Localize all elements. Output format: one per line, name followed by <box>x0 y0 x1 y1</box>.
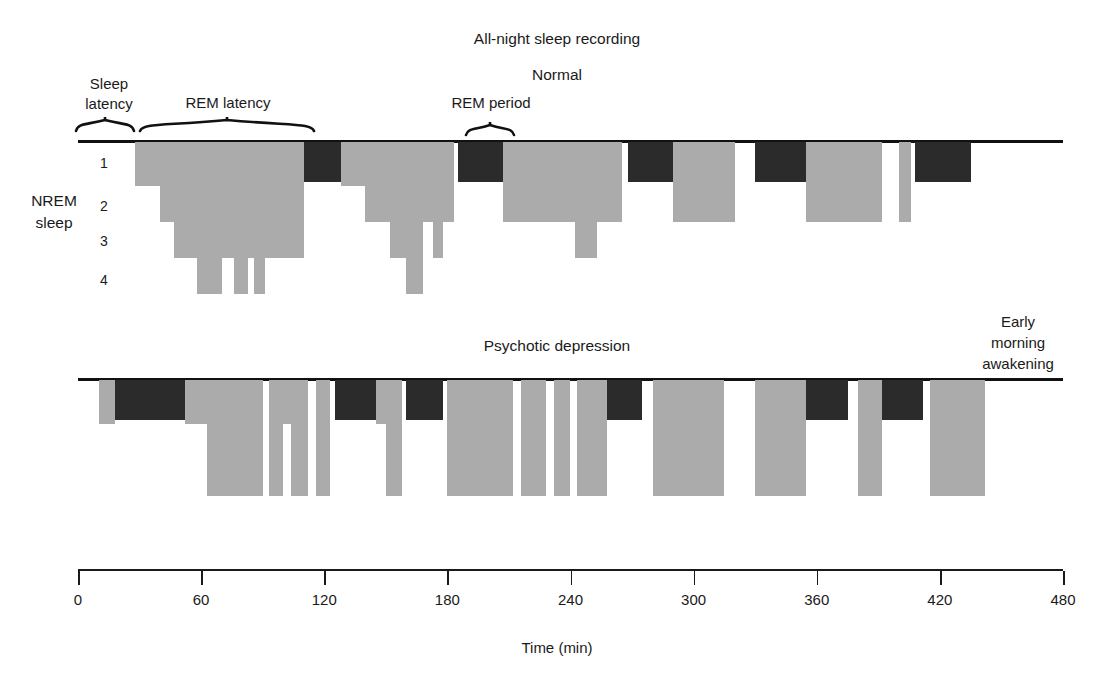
rem-segment <box>406 380 443 420</box>
nrem-sleep-line1: NREM <box>18 190 90 212</box>
nrem-segment <box>269 380 283 496</box>
x-axis-tick-label: 60 <box>177 591 225 608</box>
nrem-segment <box>597 142 622 222</box>
depression-panel-label: Psychotic depression <box>0 337 1114 355</box>
nrem-segment <box>930 380 985 496</box>
nrem-segment <box>135 142 160 186</box>
x-axis-tick <box>201 571 203 585</box>
x-axis-tick <box>78 571 80 585</box>
chart-title: All-night sleep recording <box>0 30 1114 48</box>
rem-segment <box>458 142 503 182</box>
nrem-segment <box>365 142 390 222</box>
sleep-hypnogram-figure: All-night sleep recording Normal Sleep l… <box>0 0 1114 674</box>
nrem-segment <box>406 142 422 294</box>
rem-segment <box>915 142 970 182</box>
early-morning-line2: morning <box>948 332 1088 353</box>
nrem-segment <box>653 380 725 496</box>
normal-panel-label: Normal <box>0 66 1114 84</box>
sleep-latency-line1: Sleep <box>78 74 140 94</box>
rem-latency-brace <box>138 117 320 133</box>
nrem-segment <box>316 380 330 496</box>
nrem-segment <box>806 142 882 222</box>
nrem-segment <box>443 142 453 222</box>
rem-segment <box>304 142 341 182</box>
rem-segment <box>335 380 376 420</box>
x-axis-tick-label: 300 <box>670 591 718 608</box>
nrem-segment <box>265 142 304 258</box>
x-axis-tick-label: 0 <box>54 591 102 608</box>
rem-segment <box>882 380 923 420</box>
nrem-segment <box>291 380 307 496</box>
x-axis-tick-label: 180 <box>423 591 471 608</box>
nrem-segment <box>447 380 513 496</box>
stage-label-3: 3 <box>95 233 113 249</box>
nrem-segment <box>577 380 608 496</box>
x-axis-tick-label: 360 <box>793 591 841 608</box>
rem-latency-label: REM latency <box>140 94 316 111</box>
rem-segment <box>115 380 185 420</box>
nrem-segment <box>254 142 264 294</box>
nrem-segment <box>160 142 174 222</box>
x-axis-tick <box>940 571 942 585</box>
rem-period-label: REM period <box>421 94 561 111</box>
rem-segment <box>806 380 847 420</box>
nrem-segment <box>550 142 575 222</box>
nrem-segment <box>755 380 806 496</box>
rem-period-brace <box>464 122 520 137</box>
nrem-segment <box>222 142 234 258</box>
nrem-sleep-line2: sleep <box>18 212 90 234</box>
sleep-latency-brace <box>74 117 144 133</box>
nrem-segment <box>197 142 222 294</box>
stage-label-2: 2 <box>95 198 113 214</box>
nrem-segment <box>174 142 197 258</box>
x-axis-tick <box>1063 571 1065 585</box>
nrem-segment <box>673 142 735 222</box>
nrem-sleep-axis-label: NREM sleep <box>18 190 90 234</box>
rem-segment <box>607 380 642 420</box>
nrem-segment <box>858 380 883 496</box>
x-axis-tick <box>571 571 573 585</box>
stage-label-1: 1 <box>95 155 113 171</box>
nrem-segment <box>283 380 291 424</box>
x-axis-tick-label: 480 <box>1039 591 1087 608</box>
sleep-latency-label: Sleep latency <box>78 74 140 114</box>
nrem-segment <box>341 142 366 186</box>
x-axis-tick-label: 420 <box>916 591 964 608</box>
x-axis-tick <box>817 571 819 585</box>
nrem-segment <box>185 380 208 424</box>
rem-segment <box>755 142 806 182</box>
nrem-segment <box>554 380 570 496</box>
x-axis-tick-label: 120 <box>300 591 348 608</box>
nrem-segment <box>234 142 248 294</box>
nrem-segment <box>423 142 433 222</box>
nrem-segment <box>503 142 550 222</box>
nrem-segment <box>386 380 402 496</box>
x-axis-tick <box>447 571 449 585</box>
nrem-segment <box>376 380 386 424</box>
nrem-segment <box>899 142 911 222</box>
x-axis-title: Time (min) <box>0 639 1114 656</box>
nrem-segment <box>575 142 598 258</box>
x-axis-tick-label: 240 <box>547 591 595 608</box>
x-axis-tick <box>694 571 696 585</box>
nrem-segment <box>207 380 262 496</box>
nrem-segment <box>521 380 546 496</box>
nrem-segment <box>390 142 406 258</box>
early-morning-line1: Early <box>948 311 1088 332</box>
stage-label-4: 4 <box>95 272 113 288</box>
nrem-segment <box>433 142 443 258</box>
early-morning-line3: awakening <box>948 353 1088 374</box>
sleep-latency-line2: latency <box>78 94 140 114</box>
x-axis-tick <box>324 571 326 585</box>
rem-segment <box>628 142 673 182</box>
early-morning-awakening-label: Early morning awakening <box>948 311 1088 374</box>
nrem-segment <box>99 380 115 424</box>
